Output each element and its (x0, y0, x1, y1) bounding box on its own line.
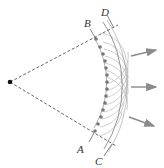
huygens-diagram: B D A C (0, 0, 164, 168)
label-b: B (84, 17, 91, 29)
label-c: C (95, 155, 103, 167)
lower-ray-line (10, 82, 116, 146)
secondary-wavelets (98, 33, 128, 136)
label-d: D (100, 6, 109, 18)
tick-a (89, 133, 94, 142)
arrow-upper (131, 50, 156, 56)
wavefront-ab (94, 37, 107, 128)
label-a: A (76, 143, 84, 155)
tick-c (104, 144, 112, 156)
source-point (8, 80, 13, 85)
arrow-lower (129, 117, 154, 126)
tick-b (90, 29, 96, 39)
